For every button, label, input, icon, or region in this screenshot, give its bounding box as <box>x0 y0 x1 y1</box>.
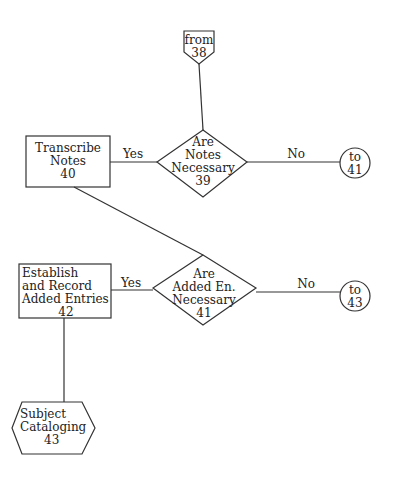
edge-39-no-label: No <box>284 148 308 161</box>
offpage-connector-from-38: from 38 <box>184 34 214 60</box>
edge-39-yes-label: Yes <box>118 148 148 161</box>
connector-to-43: to 43 <box>340 284 370 310</box>
edge-40-to-41 <box>74 187 203 255</box>
connector-to-41: to 41 <box>340 151 370 177</box>
connector-to-43-number: 43 <box>340 297 370 310</box>
decision-41: Are Added En. Necessary 41 <box>158 268 250 320</box>
decision-41-number: 41 <box>158 307 250 320</box>
connector-to-41-number: 41 <box>340 164 370 177</box>
edge-41-no-label: No <box>294 278 318 291</box>
subprocess-43: Subject Cataloging 43 <box>20 408 92 447</box>
connector-from-number: 38 <box>184 47 214 60</box>
process-42-number: 42 <box>22 306 110 319</box>
subprocess-43-number: 43 <box>20 434 92 447</box>
decision-39: Are Notes Necessary 39 <box>160 136 246 188</box>
process-40-number: 40 <box>26 168 110 181</box>
process-42: Establish and Record Added Entries 42 <box>22 267 110 319</box>
process-40: Transcribe Notes 40 <box>26 142 110 181</box>
edge-41-yes-label: Yes <box>116 277 146 290</box>
edge-38-to-39 <box>199 64 203 130</box>
decision-39-number: 39 <box>160 175 246 188</box>
